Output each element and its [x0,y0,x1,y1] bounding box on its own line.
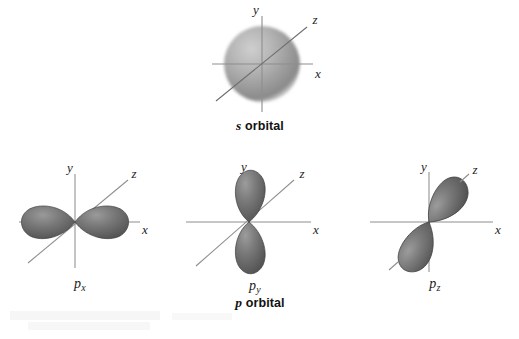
px-axis-y-label: y [65,160,73,175]
py-axis-x-label: x [312,222,319,237]
p-orbital-caption-rest: orbital [242,296,284,310]
s-orbital-caption: s orbital [195,118,325,134]
py-orbital-svg: y x z [178,160,328,278]
px-lobe-negative [21,206,75,239]
px-lobe-positive [75,206,129,239]
px-axis-z-label: z [130,166,136,181]
py-orbital-label-subscript: y [256,284,261,295]
s-orbital-caption-rest: orbital [241,119,283,133]
pz-axis-z-line-negative [389,262,398,270]
pz-orbital-label-subscript: z [437,282,441,293]
scan-artifact-3 [172,313,232,320]
pz-orbital-diagram: y x z [365,160,515,278]
pz-lobe-negative-group [391,216,446,278]
pz-orbital-svg: y x z [365,160,515,278]
py-axis-y-label: y [239,159,247,174]
pz-lobe-negative [391,216,446,278]
orbital-figure: y x z s orbital [0,0,519,339]
px-orbital-label: px [40,276,120,293]
s-axis-z-label: z [311,12,317,27]
px-axis-x-label: x [141,222,148,237]
px-orbital-svg: y x z [10,160,155,275]
py-lobe-positive [235,170,265,222]
pz-axis-y-label: y [419,159,427,174]
pz-orbital-label: pz [395,276,475,293]
px-orbital-label-subscript: x [81,282,86,293]
pz-axis-z-line-positive [460,174,469,182]
p-orbital-group-caption: p orbital [195,295,325,311]
pz-orbital-label-symbol: p [429,276,436,291]
s-orbital-diagram: y x z [185,2,335,114]
s-axis-y-label: y [251,2,259,17]
py-lobe-negative [235,222,265,274]
scan-artifact-2 [28,322,150,330]
py-axis-z-label: z [298,166,304,181]
pz-axis-z-label: z [471,162,477,177]
s-orbital-svg: y x z [185,2,335,114]
py-orbital-diagram: y x z [178,160,328,278]
s-axis-x-label: x [314,66,321,81]
px-orbital-diagram: y x z [10,160,155,275]
py-orbital-label: py [215,278,295,295]
scan-artifact-1 [10,311,160,320]
pz-axis-x-label: x [494,222,501,237]
